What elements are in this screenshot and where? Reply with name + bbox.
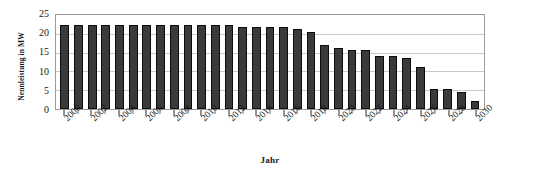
- bar-slot: [58, 15, 72, 109]
- chart-figure: Nennleistung in MW 0510152025 2000200220…: [0, 0, 540, 180]
- x-axis-title: Jahr: [0, 155, 540, 165]
- x-axis-tick-labels: 2000200220042006200820102012201420162018…: [55, 116, 485, 150]
- bar-slot: [468, 15, 482, 109]
- bar-slot: [167, 15, 181, 109]
- bar: [225, 25, 234, 109]
- bar-slot: [181, 15, 195, 109]
- bar-slot: [99, 15, 113, 109]
- bar: [266, 27, 275, 109]
- y-tick-label: 10: [39, 67, 49, 77]
- bar: [60, 25, 69, 109]
- y-tick-label: 20: [39, 28, 49, 38]
- bar-slot: [249, 15, 263, 109]
- bar: [101, 25, 110, 109]
- y-axis-title: Nennleistung in MW: [14, 14, 28, 118]
- bar: [170, 25, 179, 109]
- bar: [375, 56, 384, 109]
- bar: [416, 67, 425, 109]
- plot-area: [55, 14, 485, 110]
- bar-slot: [222, 15, 236, 109]
- bar-slot: [454, 15, 468, 109]
- bar: [74, 25, 83, 109]
- bar-slot: [277, 15, 291, 109]
- bar-slot: [85, 15, 99, 109]
- bar-slot: [304, 15, 318, 109]
- bar: [443, 89, 452, 109]
- bar: [334, 48, 343, 109]
- bar-slot: [427, 15, 441, 109]
- bar-slot: [400, 15, 414, 109]
- y-axis-title-text: Nennleistung in MW: [17, 32, 26, 100]
- bar: [197, 25, 206, 109]
- bar: [348, 50, 357, 109]
- bar-slot: [236, 15, 250, 109]
- bar-slot: [140, 15, 154, 109]
- bar: [402, 58, 411, 109]
- bar-slot: [195, 15, 209, 109]
- bar: [142, 25, 151, 109]
- bar: [471, 101, 480, 109]
- bar-slot: [318, 15, 332, 109]
- bar-slot: [72, 15, 86, 109]
- bar-slot: [113, 15, 127, 109]
- bar-slot: [331, 15, 345, 109]
- bar: [279, 27, 288, 109]
- bar: [389, 56, 398, 109]
- bar-series: [56, 15, 484, 109]
- bar-slot: [263, 15, 277, 109]
- bar: [293, 29, 302, 109]
- bar-slot: [290, 15, 304, 109]
- bar: [184, 25, 193, 109]
- y-tick-label: 15: [39, 47, 49, 57]
- bar: [238, 27, 247, 109]
- bar-slot: [413, 15, 427, 109]
- bar: [252, 27, 261, 109]
- bar-slot: [126, 15, 140, 109]
- bar: [211, 25, 220, 109]
- y-tick-label: 25: [39, 9, 49, 19]
- bar: [320, 45, 329, 109]
- bar-slot: [208, 15, 222, 109]
- y-tick-label: 5: [44, 86, 49, 96]
- bar: [88, 25, 97, 109]
- bar: [307, 32, 316, 109]
- bar-slot: [441, 15, 455, 109]
- bar: [361, 50, 370, 109]
- bar-slot: [345, 15, 359, 109]
- bar-slot: [386, 15, 400, 109]
- y-tick-label: 0: [44, 105, 49, 115]
- bar-slot: [372, 15, 386, 109]
- bar-slot: [154, 15, 168, 109]
- y-axis-tick-labels: 0510152025: [30, 14, 52, 110]
- bar: [129, 25, 138, 109]
- bar-slot: [359, 15, 373, 109]
- bar: [115, 25, 124, 109]
- bar: [156, 25, 165, 109]
